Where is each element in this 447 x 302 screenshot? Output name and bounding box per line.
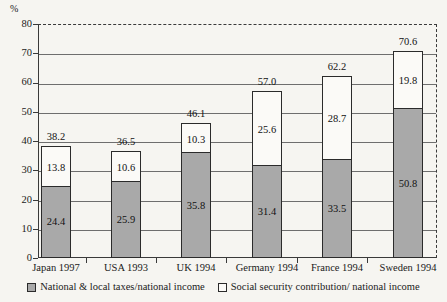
y-tick-label-10: 10 [2,224,32,234]
legend-label-taxes: National & local taxes/national income [40,281,204,293]
bar-france-taxes: 33.5 [323,159,351,257]
bar-usa-social-security: 10.6 [112,152,140,183]
legend-label-social-security: Social security contribution/ national i… [231,281,420,293]
y-tick-label-60: 60 [2,77,32,87]
y-tick-label-50: 50 [2,107,32,117]
bar-uk[interactable]: 10.3 35.8 [181,123,211,258]
bar-total-germany: 57.0 [237,76,297,87]
legend-item-taxes[interactable]: National & local taxes/national income [27,281,204,293]
y-tickmark-0 [33,258,38,259]
bar-germany[interactable]: 25.6 31.4 [252,91,282,258]
bar-germany-taxes: 31.4 [253,165,281,257]
bar-total-japan: 38.2 [26,131,86,142]
bar-uk-social-security: 10.3 [182,124,210,154]
y-tickmark-70 [33,53,38,54]
chart-legend: National & local taxes/national income S… [0,281,447,293]
y-tickmark-60 [33,83,38,84]
y-tickmark-30 [33,170,38,171]
bar-france[interactable]: 28.7 33.5 [322,76,352,258]
y-tick-label-70: 70 [2,48,32,58]
gray-swatch-icon [27,283,36,292]
bar-usa[interactable]: 10.6 25.9 [111,151,141,258]
bar-sweden-taxes: 50.8 [394,108,422,257]
legend-item-social-security[interactable]: Social security contribution/ national i… [218,281,420,293]
stacked-bar-chart: % 80 70 60 50 40 30 20 10 0 38.2 13.8 [0,0,447,302]
y-tick-label-20: 20 [2,195,32,205]
bar-japan-social-security: 13.8 [42,147,70,187]
y-tick-label-80: 80 [2,19,32,29]
bar-usa-taxes: 25.9 [112,181,140,257]
bar-total-sweden: 70.6 [378,36,438,47]
bar-japan[interactable]: 13.8 24.4 [41,146,71,258]
bar-france-social-security: 28.7 [323,77,351,161]
y-tickmark-50 [33,112,38,113]
bar-uk-taxes: 35.8 [182,152,210,257]
y-tickmark-10 [33,229,38,230]
bar-sweden-social-security: 19.8 [394,52,422,110]
bar-germany-social-security: 25.6 [253,92,281,167]
x-axis-label-sweden: Sweden 1994 [360,262,447,274]
bar-total-uk: 46.1 [166,108,226,119]
bar-sweden[interactable]: 19.8 50.8 [393,51,423,258]
y-tick-label-30: 30 [2,165,32,175]
bar-japan-taxes: 24.4 [42,186,70,257]
y-tickmark-80 [33,24,38,25]
white-swatch-icon [218,283,227,292]
bar-total-france: 62.2 [307,61,367,72]
bar-total-usa: 36.5 [96,136,156,147]
y-tickmark-20 [33,200,38,201]
